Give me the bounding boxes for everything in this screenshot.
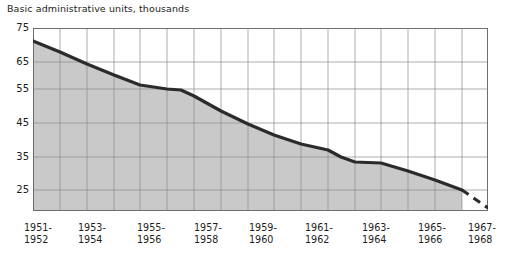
- x-tick-line2: 1964: [362, 234, 390, 246]
- y-tick-label: 75: [16, 23, 29, 33]
- x-tick-line2: 1952: [24, 234, 52, 246]
- x-tick-line1: 1951-: [24, 222, 52, 234]
- x-tick-line1: 1959-: [249, 222, 277, 234]
- x-tick-line1: 1965-: [418, 222, 446, 234]
- x-tick-line2: 1960: [249, 234, 277, 246]
- y-tick-label: 65: [16, 57, 29, 67]
- x-tick-line1: 1963-: [362, 222, 390, 234]
- chart-container: Basic administrative units, thousands 75…: [0, 0, 509, 257]
- y-tick-label: 35: [16, 152, 29, 162]
- plot-area: [33, 28, 488, 211]
- x-axis-tick-labels: 1951- 1952 1953- 1954 1955- 1956 1957- 1…: [0, 215, 509, 257]
- x-tick-label: 1963- 1964: [362, 222, 390, 245]
- x-tick-line1: 1953-: [78, 222, 106, 234]
- x-tick-label: 1955- 1956: [137, 222, 165, 245]
- data-line-dashed-projection: [462, 190, 488, 208]
- x-tick-line1: 1961-: [305, 222, 333, 234]
- x-tick-label: 1959- 1960: [249, 222, 277, 245]
- x-tick-line2: 1968: [468, 234, 496, 246]
- x-tick-label: 1967- 1968: [468, 222, 496, 245]
- x-tick-label: 1961- 1962: [305, 222, 333, 245]
- x-tick-label: 1965- 1966: [418, 222, 446, 245]
- x-tick-line1: 1957-: [194, 222, 222, 234]
- x-tick-line1: 1967-: [468, 222, 496, 234]
- y-tick-label: 25: [16, 185, 29, 195]
- y-tick-label: 55: [16, 84, 29, 94]
- x-tick-label: 1953- 1954: [78, 222, 106, 245]
- x-tick-line2: 1962: [305, 234, 333, 246]
- x-tick-line2: 1956: [137, 234, 165, 246]
- chart-svg: [33, 28, 488, 211]
- x-tick-label: 1957- 1958: [194, 222, 222, 245]
- x-tick-line2: 1958: [194, 234, 222, 246]
- x-tick-line2: 1966: [418, 234, 446, 246]
- x-tick-line1: 1955-: [137, 222, 165, 234]
- x-tick-label: 1951- 1952: [24, 222, 52, 245]
- x-tick-line2: 1954: [78, 234, 106, 246]
- chart-title: Basic administrative units, thousands: [7, 3, 189, 14]
- y-tick-label: 45: [16, 118, 29, 128]
